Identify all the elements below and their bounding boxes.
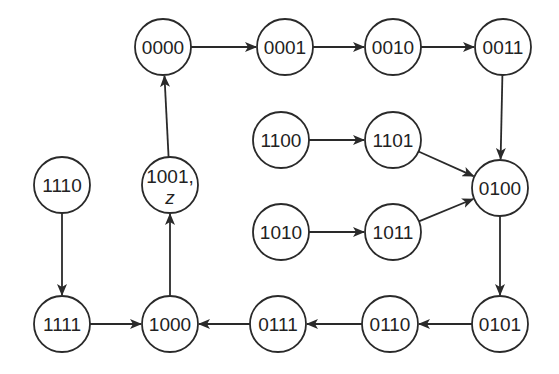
state-label: 1010 (260, 222, 302, 243)
state-node-1010: 1010 (253, 204, 309, 260)
state-label: 0000 (142, 37, 184, 58)
state-node-1110: 1110 (34, 157, 90, 213)
state-label: 1011 (373, 222, 414, 243)
state-label: 0110 (370, 314, 411, 335)
state-node-1001: 1001,z (142, 157, 198, 213)
state-label: 0001 (264, 37, 306, 58)
state-output-label: z (164, 187, 175, 208)
state-label: 0100 (479, 178, 521, 199)
state-label: 0011 (483, 37, 524, 58)
state-node-0001: 0001 (257, 19, 313, 75)
state-label: 1100 (261, 130, 302, 151)
state-diagram: 000000010010001111001101010011101001,z10… (0, 0, 559, 374)
state-node-0010: 0010 (365, 19, 421, 75)
state-label: 1101 (373, 130, 414, 151)
state-node-1000: 1000 (142, 296, 198, 352)
state-label: 0111 (258, 314, 297, 335)
state-node-1101: 1101 (365, 112, 421, 168)
state-node-1100: 1100 (253, 112, 309, 168)
state-label: 1110 (42, 175, 81, 196)
state-node-0011: 0011 (475, 19, 531, 75)
state-node-0100: 0100 (472, 160, 528, 216)
state-node-0000: 0000 (135, 19, 191, 75)
state-label: 1001, (146, 166, 194, 187)
edge-0011-to-0100 (501, 75, 503, 159)
state-node-0101: 0101 (472, 296, 528, 352)
state-node-1111: 1111 (34, 296, 90, 352)
state-label: 1000 (149, 314, 191, 335)
state-node-0111: 0111 (250, 296, 306, 352)
edges (62, 47, 502, 324)
state-label: 0010 (372, 37, 414, 58)
state-node-1011: 1011 (365, 204, 421, 260)
edge-1011-to-0100 (419, 199, 473, 221)
state-label: 0101 (479, 314, 521, 335)
state-label: 1111 (43, 314, 81, 335)
state-node-0110: 0110 (362, 296, 418, 352)
nodes: 000000010010001111001101010011101001,z10… (34, 19, 531, 352)
edge-1101-to-0100 (419, 151, 474, 176)
edge-1001-to-0000 (164, 76, 168, 157)
